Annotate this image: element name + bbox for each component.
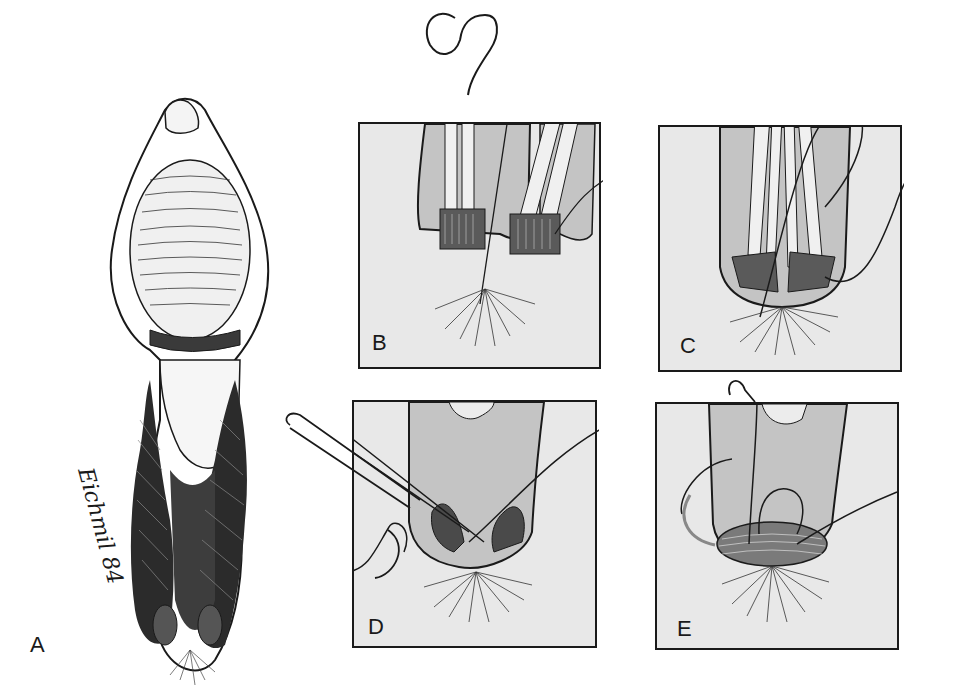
panel-b-label: B — [372, 330, 387, 356]
panel-b-illustration — [360, 124, 603, 371]
panel-e: E — [655, 402, 899, 650]
panel-b: B — [358, 122, 601, 369]
panel-d: D — [352, 400, 597, 648]
panel-c-illustration — [660, 127, 904, 374]
panel-d-illustration — [354, 402, 599, 650]
panel-c: C — [658, 125, 902, 372]
panel-a-label: A — [30, 632, 45, 658]
panel-d-label: D — [368, 614, 384, 640]
panel-e-label: E — [677, 616, 692, 642]
panel-c-label: C — [680, 333, 696, 359]
panel-e-illustration — [657, 404, 901, 652]
artist-signature: Eichmil 84 — [73, 464, 128, 587]
